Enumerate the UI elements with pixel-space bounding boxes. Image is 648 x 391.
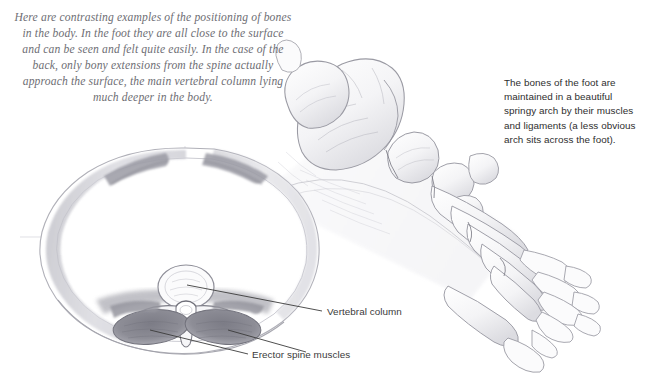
illustration-page: Here are contrasting examples of the pos… xyxy=(0,0,648,391)
label-vertebral-column: Vertebral column xyxy=(327,306,402,317)
leader-line-vertebral-column xyxy=(187,285,322,311)
label-erector-spine-muscles: Erector spine muscles xyxy=(252,349,350,360)
foot-caption-text: The bones of the foot are maintained in … xyxy=(504,76,644,147)
leader-line-erector-left xyxy=(150,330,248,354)
intro-paragraph: Here are contrasting examples of the pos… xyxy=(14,10,292,105)
